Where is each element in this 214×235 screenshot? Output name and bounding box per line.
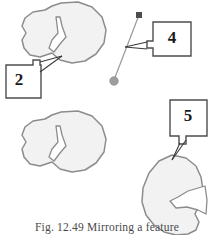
callout-label-2: 2 xyxy=(6,71,32,88)
figure-mirroring-a-feature: 2 4 5 Fig. 12.49 Mirroring a feature xyxy=(0,0,214,235)
callout-4-leader-lower xyxy=(125,47,147,49)
callout-label-5: 5 xyxy=(175,107,201,124)
callout-label-4: 4 xyxy=(159,29,185,46)
callout-2-leader-lower xyxy=(40,56,62,72)
figure-caption: Fig. 12.49 Mirroring a feature xyxy=(0,221,214,233)
mirror-axis-circle-handle[interactable] xyxy=(110,77,118,85)
mirror-axis-square-handle[interactable] xyxy=(136,12,142,18)
